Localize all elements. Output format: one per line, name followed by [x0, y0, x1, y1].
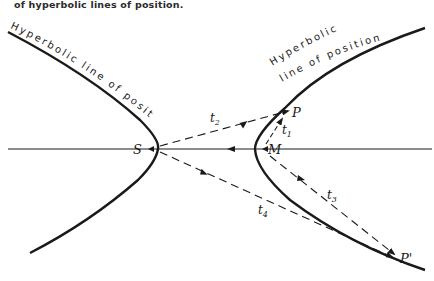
t4-label: t4: [258, 203, 268, 219]
point-p-prime-label: P': [399, 251, 412, 266]
t1-label: t1: [282, 123, 292, 139]
point-s-label: S: [133, 142, 142, 157]
point-p-label: P: [291, 105, 301, 120]
right-curve-label-line2: line of position: [278, 31, 383, 83]
left-curve-label: Hyperbolic line of position: [0, 0, 157, 120]
path-t2: [160, 111, 288, 146]
baseline-arrow-icon: [227, 146, 235, 152]
t2-label: t2: [210, 111, 220, 127]
s-arrow-icon: [148, 146, 154, 152]
hyperbolic-lop-diagram: Hyperbolic line of position Hyperbolic l…: [0, 0, 434, 281]
t2-mid-arrow-icon: [240, 121, 249, 129]
point-m-label: M: [267, 142, 282, 157]
t3-label: t3: [327, 188, 337, 204]
path-t3: [270, 156, 394, 254]
t3-mid-arrow-icon: [297, 175, 305, 181]
